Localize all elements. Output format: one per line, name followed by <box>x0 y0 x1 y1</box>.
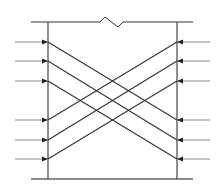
left-arrow-icon <box>42 118 48 123</box>
right-arrow-icon <box>177 40 183 45</box>
right-arrow-icon <box>177 157 183 162</box>
crossing-diagram <box>0 0 223 194</box>
right-arrow-icon <box>177 79 183 84</box>
left-arrow-icon <box>42 40 48 45</box>
right-arrow-icon <box>177 59 183 64</box>
top-boundary-line <box>31 17 193 27</box>
right-arrow-icon <box>177 138 183 143</box>
left-arrow-icon <box>42 59 48 64</box>
right-arrow-icon <box>177 118 183 123</box>
left-arrow-icon <box>42 79 48 84</box>
left-arrow-icon <box>42 138 48 143</box>
left-arrow-icon <box>42 157 48 162</box>
